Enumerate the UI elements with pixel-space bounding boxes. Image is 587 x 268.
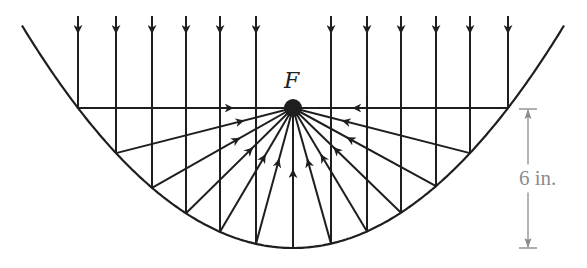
reflected-arrow-icon (278, 160, 279, 162)
reflected-arrow-icon (321, 155, 322, 157)
reflected-arrow-icon (334, 148, 335, 149)
reflected-ray (293, 108, 331, 244)
reflected-arrow-icon (238, 138, 240, 139)
reflected-ray (256, 108, 293, 244)
reflected-arrow-icon (251, 148, 252, 149)
focus-point (284, 99, 302, 117)
reflected-ray (116, 108, 293, 153)
focus-label: F (284, 70, 299, 92)
parabolic-reflector-diagram: F 6 in. (0, 0, 587, 268)
dimension-label: 6 in. (519, 166, 556, 191)
reflected-arrow-icon (307, 160, 308, 162)
reflected-arrow-icon (347, 138, 349, 139)
reflected-ray (293, 108, 470, 153)
reflected-ray (152, 108, 293, 188)
diagram-canvas (0, 0, 587, 268)
reflected-arrow-icon (264, 155, 265, 157)
reflected-ray (293, 108, 436, 186)
